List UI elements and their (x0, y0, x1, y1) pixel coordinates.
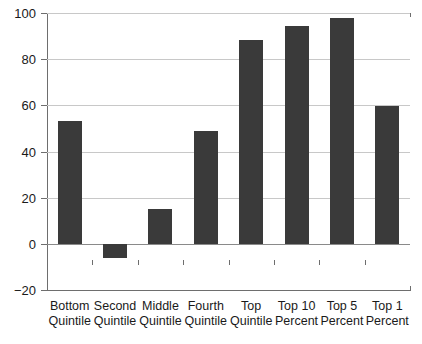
x-axis-label-line: Second (92, 299, 137, 314)
bar (103, 244, 127, 258)
x-axis-label-line: Percent (319, 314, 364, 329)
x-axis-label-line: Top 1 (365, 299, 410, 314)
y-axis-label-20: 20 (0, 191, 36, 204)
x-axis-label-line: Top (229, 299, 274, 314)
x-tick-2 (138, 260, 139, 265)
x-tick-7 (365, 260, 366, 265)
y-tick-100 (41, 13, 47, 14)
y-axis-label--20: −20 (0, 284, 36, 297)
y-axis-label-40: 40 (0, 145, 36, 158)
gridline--20 (47, 290, 410, 291)
y-axis-label-80: 80 (0, 53, 36, 66)
x-axis-label-1: SecondQuintile (92, 299, 137, 329)
zero-line (47, 244, 410, 245)
gridline-80 (47, 59, 410, 60)
y-axis-label-0: 0 (0, 237, 36, 250)
x-axis-label-line: Quintile (138, 314, 183, 329)
x-axis-label-line: Percent (365, 314, 410, 329)
frame-cap-top (410, 13, 411, 17)
gridline-20 (47, 198, 410, 199)
x-tick-1 (92, 260, 93, 265)
x-tick-3 (183, 260, 184, 265)
x-axis-label-2: MiddleQuintile (138, 299, 183, 329)
bar (285, 26, 309, 244)
x-axis-label-line: Quintile (183, 314, 228, 329)
gridline-40 (47, 152, 410, 153)
x-axis-label-line: Quintile (92, 314, 137, 329)
bar (375, 106, 399, 243)
gridline-60 (47, 105, 410, 106)
gridline-100 (47, 13, 410, 14)
x-axis-label-line: Percent (274, 314, 319, 329)
x-tick-4 (229, 260, 230, 265)
x-axis-label-line: Top 10 (274, 299, 319, 314)
x-axis-label-line: Quintile (47, 314, 92, 329)
frame-cap-bottom (410, 286, 411, 291)
bar (239, 40, 263, 244)
bar (148, 209, 172, 244)
x-axis-label-4: TopQuintile (229, 299, 274, 329)
x-axis-label-7: Top 1Percent (365, 299, 410, 329)
y-axis-label-60: 60 (0, 99, 36, 112)
y-tick-80 (41, 59, 47, 60)
y-tick-0 (41, 244, 47, 245)
x-axis-label-line: Fourth (183, 299, 228, 314)
plot-area (47, 13, 410, 290)
y-tick-20 (41, 198, 47, 199)
x-axis-label-line: Quintile (229, 314, 274, 329)
x-axis-label-6: Top 5Percent (319, 299, 364, 329)
bar (330, 18, 354, 244)
y-tick--20 (41, 290, 47, 291)
x-axis-label-5: Top 10Percent (274, 299, 319, 329)
bar (58, 121, 82, 243)
x-tick-6 (319, 260, 320, 265)
x-axis-label-3: FourthQuintile (183, 299, 228, 329)
bar (194, 131, 218, 244)
y-axis-label-100: 100 (0, 7, 36, 20)
x-axis-label-line: Middle (138, 299, 183, 314)
y-tick-40 (41, 152, 47, 153)
bar-chart: −20020406080100 BottomQuintileSecondQuin… (0, 0, 422, 344)
x-axis-label-line: Bottom (47, 299, 92, 314)
x-tick-5 (274, 260, 275, 265)
x-axis-label-0: BottomQuintile (47, 299, 92, 329)
x-axis-label-line: Top 5 (319, 299, 364, 314)
y-tick-60 (41, 105, 47, 106)
